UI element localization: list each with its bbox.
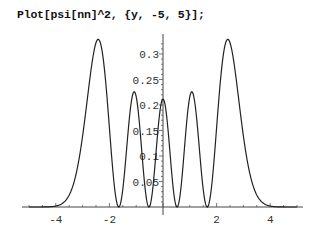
y-tick-label: 0.05 <box>133 177 159 189</box>
x-tick-label: 2 <box>213 214 220 226</box>
x-tick-label: -2 <box>103 214 116 226</box>
axes <box>22 34 303 215</box>
y-tick-label: 0.3 <box>139 49 159 61</box>
y-tick-label: 0.25 <box>133 75 159 87</box>
x-tick-label: 4 <box>267 214 274 226</box>
y-tick-label: 0.2 <box>139 100 159 112</box>
y-tick-label: 0.15 <box>133 126 159 138</box>
x-tick-label: -4 <box>49 214 63 226</box>
plot-area: -4-224 0.050.10.150.20.250.3 <box>0 0 317 229</box>
